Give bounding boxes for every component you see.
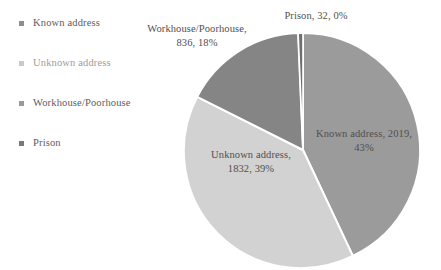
pie-chart-figure: Known address Unknown address Workhouse/…: [0, 0, 441, 270]
data-label-known-address: Known address, 2019, 43%: [302, 127, 426, 154]
data-label-line1: Known address, 2019,: [316, 128, 412, 139]
legend-item-label: Workhouse/Poorhouse: [33, 97, 131, 109]
legend-item-workhouse-poorhouse[interactable]: Workhouse/Poorhouse: [14, 96, 154, 110]
data-label-line2: 836, 18%: [133, 36, 261, 50]
data-label-workhouse-poorhouse: Workhouse/Poorhouse, 836, 18%: [133, 22, 261, 49]
data-label-line2: 43%: [302, 141, 426, 155]
legend-swatch-icon: [19, 101, 24, 106]
data-label-unknown-address: Unknown address, 1832, 39%: [190, 148, 312, 175]
data-label-line2: 1832, 39%: [190, 162, 312, 176]
legend-item-label: Prison: [33, 137, 61, 149]
legend-item-prison[interactable]: Prison: [14, 136, 154, 150]
legend-swatch-icon: [19, 21, 24, 26]
legend-item-label: Unknown address: [33, 57, 111, 69]
data-label-line1: Workhouse/Poorhouse,: [147, 23, 246, 34]
legend-swatch-icon: [19, 61, 24, 66]
data-label-prison: Prison, 32, 0%: [256, 9, 376, 23]
legend-item-unknown-address[interactable]: Unknown address: [14, 56, 154, 70]
data-label-line1: Unknown address,: [211, 149, 291, 160]
legend-swatch-icon: [19, 141, 24, 146]
legend-item-label: Known address: [33, 17, 100, 29]
data-label-line1: Prison, 32, 0%: [284, 10, 347, 21]
